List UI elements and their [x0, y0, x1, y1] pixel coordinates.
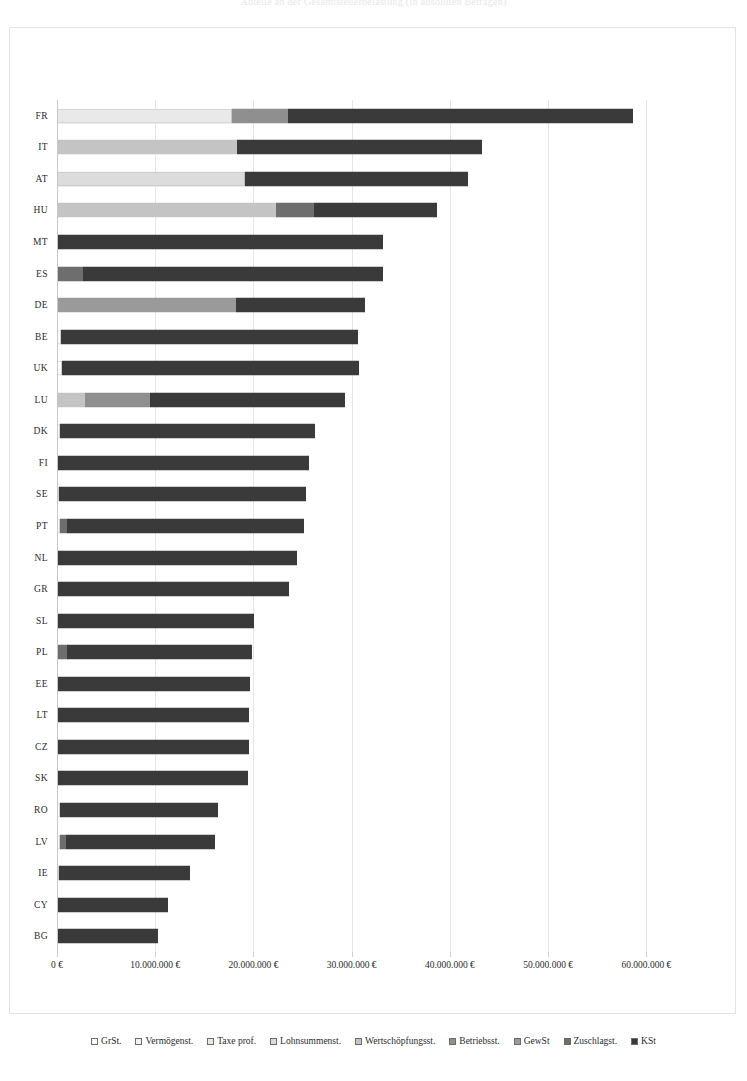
stacked-bar[interactable]	[57, 771, 248, 786]
bar-row	[57, 479, 666, 511]
stacked-bar[interactable]	[57, 108, 633, 123]
x-axis-label: 60.000.000 €	[621, 960, 671, 970]
bar-row	[57, 447, 666, 479]
x-axis-label: 40.000.000 €	[425, 960, 475, 970]
bar-segment	[67, 645, 253, 660]
bar-row	[57, 700, 666, 732]
y-axis-label: LV	[8, 837, 48, 847]
stacked-bar[interactable]	[57, 234, 383, 249]
bar-segment	[314, 203, 437, 218]
legend-item[interactable]: GewSt	[514, 1036, 550, 1046]
bar-row	[57, 920, 666, 952]
bar-segment	[237, 140, 483, 155]
bar-segment	[57, 550, 297, 565]
stacked-bar[interactable]	[57, 582, 289, 597]
y-axis-label: MT	[8, 237, 48, 247]
y-axis-label: IT	[8, 142, 48, 152]
y-axis-labels: FRITATHUMTESDEBEUKLUDKFISEPTNLGRSLPLEELT…	[0, 100, 48, 952]
stacked-bar[interactable]	[57, 929, 158, 944]
legend-swatch	[135, 1038, 142, 1045]
bar-segment	[236, 298, 366, 313]
stacked-bar[interactable]	[57, 708, 249, 723]
x-axis-label: 10.000.000 €	[130, 960, 180, 970]
bar-row	[57, 321, 666, 353]
stacked-bar[interactable]	[57, 897, 168, 912]
legend-swatch	[631, 1038, 638, 1045]
bar-segment	[57, 298, 236, 313]
bar-segment	[57, 266, 83, 281]
bar-row	[57, 510, 666, 542]
y-axis-label: FI	[8, 458, 48, 468]
legend-item[interactable]: Vermögenst.	[135, 1036, 193, 1046]
bar-segment	[60, 424, 314, 439]
stacked-bar[interactable]	[57, 298, 365, 313]
bar-row	[57, 258, 666, 290]
legend-label: Zuschlagst.	[574, 1036, 618, 1046]
stacked-bar[interactable]	[57, 203, 437, 218]
bar-segment	[57, 203, 276, 218]
stacked-bar[interactable]	[57, 361, 359, 376]
y-axis-label: PT	[8, 521, 48, 531]
x-tick	[57, 952, 58, 957]
legend-label: Betriebsst.	[459, 1036, 499, 1046]
bar-segment	[57, 739, 249, 754]
bar-segment	[67, 518, 304, 533]
x-axis-label: 20.000.000 €	[229, 960, 279, 970]
legend-label: KSt	[641, 1036, 656, 1046]
bar-segment	[57, 455, 309, 470]
stacked-bar[interactable]	[57, 676, 250, 691]
legend-swatch	[514, 1038, 521, 1045]
y-axis-label: PL	[8, 647, 48, 657]
bar-segment	[232, 108, 288, 123]
stacked-bar[interactable]	[57, 613, 254, 628]
stacked-bar[interactable]	[57, 487, 306, 502]
legend-item[interactable]: Taxe prof.	[207, 1036, 256, 1046]
bar-segment	[60, 834, 67, 849]
y-axis-label: BG	[8, 931, 48, 941]
bar-row	[57, 100, 666, 132]
legend-item[interactable]: Betriebsst.	[449, 1036, 499, 1046]
bar-segment	[60, 518, 67, 533]
legend-item[interactable]: Lohnsummenst.	[270, 1036, 341, 1046]
stacked-bar[interactable]	[57, 866, 190, 881]
legend-swatch	[91, 1038, 98, 1045]
y-axis-label: EE	[8, 679, 48, 689]
stacked-bar[interactable]	[57, 329, 358, 344]
stacked-bar[interactable]	[57, 455, 309, 470]
legend-item[interactable]: KSt	[631, 1036, 656, 1046]
stacked-bar[interactable]	[57, 424, 315, 439]
stacked-bar[interactable]	[57, 392, 345, 407]
bar-segment	[57, 708, 249, 723]
stacked-bar[interactable]	[57, 171, 468, 186]
stacked-bar[interactable]	[57, 834, 215, 849]
y-axis-label: LT	[8, 710, 48, 720]
legend-swatch	[207, 1038, 214, 1045]
stacked-bar[interactable]	[57, 802, 218, 817]
bar-segment	[57, 234, 383, 249]
stacked-bar[interactable]	[57, 266, 383, 281]
x-axis-label: 0 €	[51, 960, 63, 970]
stacked-bar[interactable]	[57, 739, 249, 754]
legend-item[interactable]: GrSt.	[91, 1036, 121, 1046]
bar-row	[57, 416, 666, 448]
x-axis-label: 30.000.000 €	[327, 960, 377, 970]
bar-segment	[57, 929, 158, 944]
legend-swatch	[355, 1038, 362, 1045]
stacked-bar[interactable]	[57, 645, 252, 660]
legend-item[interactable]: Zuschlagst.	[564, 1036, 618, 1046]
chart-title: Anteile an der Gesamtsteuerbelastung (in…	[0, 0, 747, 8]
bar-row	[57, 163, 666, 195]
bar-segment	[57, 582, 289, 597]
stacked-bar[interactable]	[57, 518, 304, 533]
bar-row	[57, 132, 666, 164]
y-axis-label: HU	[8, 205, 48, 215]
legend-item[interactable]: Wertschöpfungsst.	[355, 1036, 435, 1046]
bar-segment	[59, 487, 306, 502]
stacked-bar[interactable]	[57, 550, 297, 565]
bar-row	[57, 794, 666, 826]
y-axis-label: BE	[8, 332, 48, 342]
bar-row	[57, 384, 666, 416]
stacked-bar[interactable]	[57, 140, 482, 155]
x-tick	[155, 952, 156, 957]
bar-segment	[57, 140, 237, 155]
